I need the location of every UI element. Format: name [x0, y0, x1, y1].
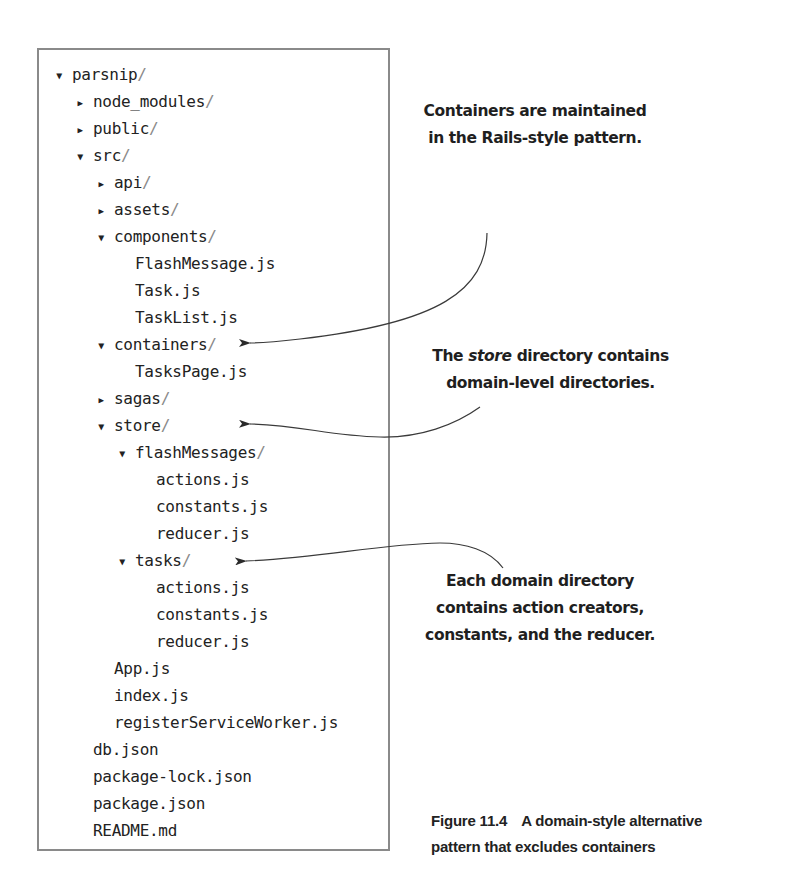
folder-slash: / [142, 173, 151, 192]
folder-row[interactable]: ▼components/ [94, 225, 217, 249]
caret-right-icon[interactable]: ▶ [73, 118, 87, 142]
folder-row[interactable]: ▶assets/ [94, 198, 179, 222]
caret-down-icon[interactable]: ▼ [115, 442, 129, 466]
file-row: App.js [114, 657, 170, 681]
callout-domain-line1: Each domain directory [410, 568, 670, 595]
file-row: TaskList.js [135, 306, 238, 330]
folder-row[interactable]: ▶sagas/ [94, 387, 170, 411]
file-row: index.js [114, 684, 189, 708]
folder-slash: / [170, 200, 179, 219]
callout-store-text: The [432, 347, 468, 365]
entry-name: src [93, 146, 121, 165]
caret-down-icon[interactable]: ▼ [94, 334, 108, 358]
entry-name: reducer.js [156, 524, 249, 543]
entry-name: public [93, 119, 149, 138]
folder-row[interactable]: ▶public/ [73, 117, 158, 141]
file-row: constants.js [156, 603, 268, 627]
caret-right-icon[interactable]: ▶ [94, 199, 108, 223]
caption-title: A domain-style alternative [521, 812, 702, 829]
entry-name: store [114, 416, 161, 435]
folder-row[interactable]: ▶node_modules/ [73, 90, 214, 114]
file-row: db.json [93, 738, 158, 762]
folder-slash: / [207, 335, 216, 354]
entry-name: api [114, 173, 142, 192]
entry-name: db.json [93, 740, 158, 759]
figure-number: Figure 11.4 [431, 812, 507, 829]
file-row: Task.js [135, 279, 200, 303]
caret-down-icon[interactable]: ▼ [94, 415, 108, 439]
caret-down-icon[interactable]: ▼ [94, 226, 108, 250]
callout-store: The store directory contains domain-leve… [408, 343, 693, 397]
file-row: FlashMessage.js [135, 252, 275, 276]
entry-name: flashMessages [135, 443, 256, 462]
file-row: reducer.js [156, 522, 249, 546]
file-row: README.md [93, 819, 177, 843]
entry-name: registerServiceWorker.js [114, 713, 338, 732]
file-row: TasksPage.js [135, 360, 247, 384]
folder-slash: / [149, 119, 158, 138]
callout-domain: Each domain directory contains action cr… [410, 568, 670, 649]
file-row: package.json [93, 792, 205, 816]
entry-name: constants.js [156, 497, 268, 516]
caption-line1: Figure 11.4A domain-style alternative [431, 808, 702, 834]
folder-slash: / [137, 65, 146, 84]
file-row: constants.js [156, 495, 268, 519]
entry-name: sagas [114, 389, 161, 408]
folder-row[interactable]: ▼store/ [94, 414, 170, 438]
callout-domain-line2: contains action creators, [410, 595, 670, 622]
folder-slash: / [161, 389, 170, 408]
caret-right-icon[interactable]: ▶ [94, 172, 108, 196]
entry-name: actions.js [156, 470, 249, 489]
entry-name: App.js [114, 659, 170, 678]
entry-name: package-lock.json [93, 767, 252, 786]
callout-containers: Containers are maintained in the Rails-s… [420, 98, 650, 152]
folder-slash: / [121, 146, 130, 165]
entry-name: constants.js [156, 605, 268, 624]
folder-row[interactable]: ▼src/ [73, 144, 130, 168]
callout-store-line2: domain-level directories. [408, 370, 693, 397]
entry-name: TasksPage.js [135, 362, 247, 381]
entry-name: components [114, 227, 207, 246]
entry-name: containers [114, 335, 207, 354]
caret-right-icon[interactable]: ▶ [94, 388, 108, 412]
entry-name: TaskList.js [135, 308, 238, 327]
caret-right-icon[interactable]: ▶ [73, 91, 87, 115]
entry-name: node_modules [93, 92, 205, 111]
entry-name: Task.js [135, 281, 200, 300]
folder-slash: / [205, 92, 214, 111]
entry-name: package.json [93, 794, 205, 813]
caret-down-icon[interactable]: ▼ [52, 64, 66, 88]
entry-name: FlashMessage.js [135, 254, 275, 273]
entry-name: parsnip [72, 65, 137, 84]
folder-slash: / [256, 443, 265, 462]
file-row: registerServiceWorker.js [114, 711, 338, 735]
folder-row[interactable]: ▼containers/ [94, 333, 217, 357]
file-row: actions.js [156, 576, 249, 600]
entry-name: tasks [135, 551, 182, 570]
callout-containers-line2: in the Rails-style pattern. [420, 125, 650, 152]
file-row: reducer.js [156, 630, 249, 654]
callout-domain-line3: constants, and the reducer. [410, 622, 670, 649]
file-row: package-lock.json [93, 765, 252, 789]
entry-name: index.js [114, 686, 189, 705]
entry-name: actions.js [156, 578, 249, 597]
callout-containers-line1: Containers are maintained [420, 98, 650, 125]
folder-row[interactable]: ▼tasks/ [115, 549, 191, 573]
folder-row[interactable]: ▶api/ [94, 171, 151, 195]
folder-row[interactable]: ▼flashMessages/ [115, 441, 266, 465]
folder-row[interactable]: ▼parsnip/ [52, 63, 147, 87]
caption-line2: pattern that excludes containers [431, 834, 702, 860]
caret-down-icon[interactable]: ▼ [115, 550, 129, 574]
callout-store-text: directory contains [512, 347, 669, 365]
folder-slash: / [182, 551, 191, 570]
entry-name: assets [114, 200, 170, 219]
callout-store-emphasis: store [468, 347, 511, 365]
figure-caption: Figure 11.4A domain-style alternative pa… [431, 808, 702, 860]
entry-name: README.md [93, 821, 177, 840]
callout-store-line1: The store directory contains [408, 343, 693, 370]
entry-name: reducer.js [156, 632, 249, 651]
file-row: actions.js [156, 468, 249, 492]
folder-slash: / [161, 416, 170, 435]
folder-slash: / [207, 227, 216, 246]
caret-down-icon[interactable]: ▼ [73, 145, 87, 169]
